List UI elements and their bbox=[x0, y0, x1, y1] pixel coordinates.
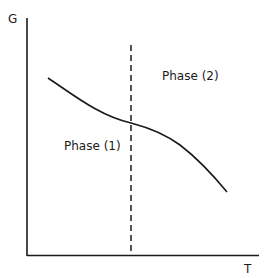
x-axis-label: T bbox=[244, 262, 251, 276]
phase-diagram: G T Phase (1) Phase (2) bbox=[0, 0, 271, 278]
free-energy-curve bbox=[48, 78, 227, 192]
region-label-phase-2: Phase (2) bbox=[162, 69, 219, 83]
diagram-canvas bbox=[0, 0, 271, 278]
region-label-phase-1: Phase (1) bbox=[64, 139, 121, 153]
y-axis-label: G bbox=[8, 12, 17, 26]
